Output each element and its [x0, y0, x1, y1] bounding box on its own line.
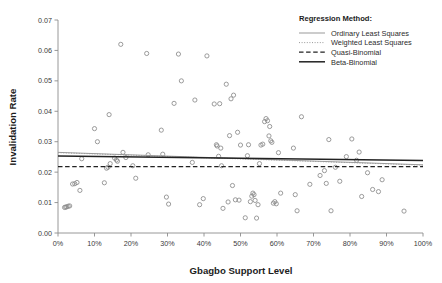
scatter-point: [226, 200, 230, 204]
scatter-point: [327, 137, 331, 141]
legend-entries: Ordinary Least SquaresWeighted Least Squ…: [299, 29, 412, 67]
scatter-plot-canvas: 0.000.010.020.030.040.050.060.07 0%10%20…: [0, 0, 442, 283]
scatter-point: [190, 160, 194, 164]
scatter-point: [295, 209, 299, 213]
scatter-point: [402, 209, 406, 213]
x-axis: 0%10%20%30%40%50%60%70%80%90%100%: [53, 233, 433, 248]
scatter-point: [107, 113, 111, 117]
scatter-point: [92, 127, 96, 131]
scatter-point: [254, 216, 258, 220]
scatter-point: [166, 202, 170, 206]
x-tick-label: 30%: [160, 239, 175, 248]
scatter-point: [176, 52, 180, 56]
scatter-point: [218, 102, 222, 106]
scatter-point: [380, 178, 384, 182]
y-axis-title: Invalidation Rate: [7, 89, 18, 166]
scatter-point: [256, 203, 260, 207]
scatter-point: [365, 171, 369, 175]
scatter-point: [221, 206, 225, 210]
scatter-point: [119, 42, 123, 46]
scatter-point: [308, 182, 312, 186]
scatter-point: [235, 130, 239, 134]
scatter-point: [253, 198, 257, 202]
scatter-point: [291, 146, 295, 150]
scatter-point: [219, 146, 223, 150]
legend-item-quasi-binomial: Quasi-Binomial: [299, 48, 381, 57]
scatter-point: [80, 157, 84, 161]
x-tick-label: 80%: [343, 239, 358, 248]
scatter-point: [108, 162, 112, 166]
legend-item-weighted-least-squares: Weighted Least Squares: [299, 38, 412, 47]
scatter-point: [268, 124, 272, 128]
scatter-point: [246, 143, 250, 147]
legend-item-ordinary-least-squares: Ordinary Least Squares: [299, 29, 409, 38]
y-tick-label: 0.01: [38, 198, 52, 207]
scatter-point: [164, 195, 168, 199]
scatter-point: [115, 159, 119, 163]
scatter-point: [212, 102, 216, 106]
y-axis: 0.000.010.020.030.040.050.060.07: [38, 16, 58, 238]
legend-item-beta-binomial: Beta-Binomial: [299, 58, 377, 67]
scatter-point: [360, 194, 364, 198]
scatter-point: [179, 79, 183, 83]
y-tick-label: 0.03: [38, 137, 52, 146]
scatter-point: [324, 181, 328, 185]
scatter-point: [243, 216, 247, 220]
chart-figure: 0.000.010.020.030.040.050.060.07 0%10%20…: [0, 0, 442, 283]
scatter-point: [276, 151, 280, 155]
scatter-point: [371, 187, 375, 191]
scatter-point: [299, 115, 303, 119]
legend-label: Quasi-Binomial: [331, 48, 381, 57]
scatter-point: [279, 191, 283, 195]
scatter-point: [267, 134, 271, 138]
scatter-point: [344, 155, 348, 159]
scatter-point: [205, 54, 209, 58]
x-tick-label: 60%: [270, 239, 285, 248]
scatter-point: [238, 143, 242, 147]
scatter-point: [224, 82, 228, 86]
scatter-point: [329, 209, 333, 213]
x-tick-label: 20%: [124, 239, 139, 248]
scatter-point: [121, 150, 125, 154]
legend-label: Ordinary Least Squares: [331, 29, 409, 38]
scatter-point: [95, 140, 99, 144]
scatter-point: [230, 183, 234, 187]
scatter-point: [293, 193, 297, 197]
scatter-point: [357, 150, 361, 154]
y-tick-label: 0.06: [38, 46, 52, 55]
scatter-point: [201, 197, 205, 201]
scatter-point: [231, 93, 235, 97]
scatter-point: [350, 137, 354, 141]
x-tick-label: 50%: [233, 239, 248, 248]
x-tick-label: 90%: [379, 239, 394, 248]
scatter-point: [322, 169, 326, 173]
scatter-points: [62, 42, 406, 220]
x-tick-label: 40%: [197, 239, 212, 248]
scatter-point: [376, 190, 380, 194]
scatter-point: [248, 200, 252, 204]
x-tick-label: 10%: [87, 239, 102, 248]
scatter-point: [193, 98, 197, 102]
legend-label: Beta-Binomial: [331, 58, 377, 67]
scatter-point: [159, 128, 163, 132]
scatter-point: [257, 162, 261, 166]
scatter-point: [227, 134, 231, 138]
x-axis-title: Gbagbo Support Level: [190, 265, 293, 276]
y-tick-label: 0.04: [38, 107, 52, 116]
y-tick-label: 0.00: [38, 229, 52, 238]
legend-title: Regression Method:: [299, 14, 372, 23]
scatter-point: [245, 154, 249, 158]
scatter-point: [145, 51, 149, 55]
scatter-point: [78, 188, 82, 192]
scatter-point: [338, 179, 342, 183]
x-tick-label: 0%: [53, 239, 64, 248]
legend: Regression Method: Ordinary Least Square…: [299, 14, 412, 67]
scatter-point: [172, 101, 176, 105]
scatter-point: [102, 181, 106, 185]
legend-label: Weighted Least Squares: [331, 38, 412, 47]
y-tick-label: 0.02: [38, 168, 52, 177]
scatter-point: [134, 176, 138, 180]
y-tick-label: 0.07: [38, 16, 52, 25]
scatter-point: [318, 173, 322, 177]
y-tick-label: 0.05: [38, 76, 52, 85]
